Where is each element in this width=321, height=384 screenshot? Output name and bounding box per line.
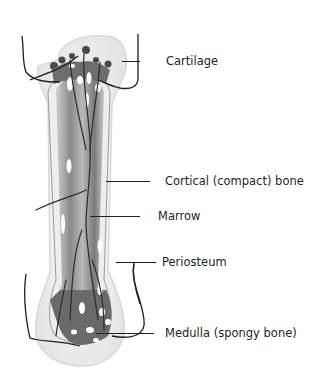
label-cortical-bone: Cortical (compact) bone: [165, 176, 304, 188]
cortical-leader-line: [106, 181, 150, 182]
label-periosteum: Periosteum: [162, 257, 227, 269]
periosteum-leader-line: [116, 262, 156, 263]
label-cartilage: Cartilage: [166, 56, 218, 68]
label-medulla: Medulla (spongy bone): [165, 328, 297, 340]
cartilage-leader-line: [122, 61, 140, 62]
medulla-leader-line: [96, 333, 154, 334]
label-marrow: Marrow: [158, 211, 200, 223]
marrow-leader-line: [90, 216, 140, 217]
